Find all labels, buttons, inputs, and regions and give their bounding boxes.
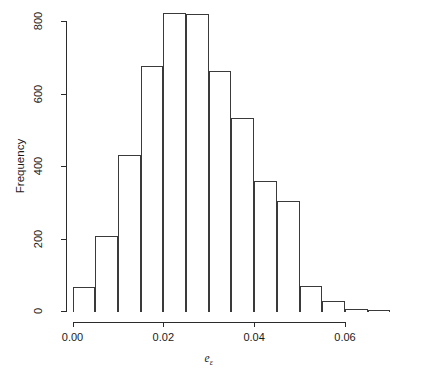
histogram-bar — [345, 309, 368, 312]
histogram-bar — [254, 181, 277, 312]
y-axis-tick — [61, 94, 66, 95]
histogram-bar — [300, 286, 323, 312]
y-axis-tick-label: 600 — [30, 76, 46, 112]
histogram-bar — [141, 66, 164, 312]
x-axis-tick — [345, 322, 346, 327]
x-axis-title: eε — [179, 352, 239, 367]
histogram-figure: 0200400600800 Frequency 0.000.020.040.06… — [0, 0, 422, 381]
x-axis-tick — [163, 322, 164, 327]
histogram-bar — [186, 14, 209, 312]
y-axis-tick — [61, 239, 66, 240]
x-axis-tick-label: 0.00 — [43, 331, 103, 343]
x-axis-tick-label: 0.02 — [133, 331, 193, 343]
x-axis-tick — [73, 322, 74, 327]
y-axis-title: Frequency — [11, 121, 29, 211]
y-axis-tick — [61, 166, 66, 167]
y-axis-tick-label: 800 — [30, 3, 46, 39]
histogram-bar — [368, 310, 391, 312]
x-axis-tick — [254, 322, 255, 327]
x-axis-tick-label: 0.04 — [224, 331, 284, 343]
histogram-bar — [277, 201, 300, 312]
y-axis-tick — [61, 21, 66, 22]
y-axis-tick-label: 0 — [30, 293, 46, 329]
x-axis-line — [73, 322, 347, 323]
histogram-bar — [209, 71, 232, 312]
x-axis-title-subscript: ε — [210, 358, 213, 367]
y-axis-tick-label: 200 — [30, 221, 46, 257]
plot-area: 0200400600800 Frequency 0.000.020.040.06… — [0, 0, 422, 381]
histogram-bar — [118, 155, 141, 312]
y-axis-tick — [61, 311, 66, 312]
histogram-bar — [231, 118, 254, 312]
histogram-bar — [95, 236, 118, 312]
histogram-bar — [73, 287, 96, 312]
x-axis-tick-label: 0.06 — [315, 331, 375, 343]
y-axis-tick-label: 400 — [30, 148, 46, 184]
histogram-bar — [163, 13, 186, 312]
y-axis-line — [66, 21, 67, 312]
histogram-bar — [322, 301, 345, 312]
